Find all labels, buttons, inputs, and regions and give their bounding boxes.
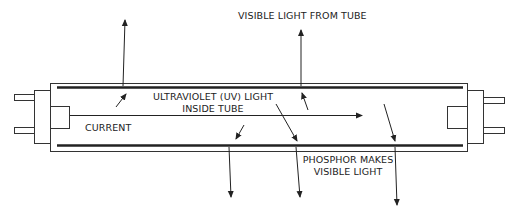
label-uv-line2: INSIDE TUBE — [138, 103, 288, 115]
left-top-pin — [15, 95, 35, 101]
left-bottom-pin — [15, 128, 35, 134]
label-phosphor-line2: VISIBLE LIGHT — [298, 166, 398, 178]
right-end-cap — [448, 91, 505, 144]
visible-light-arrow-up-left — [123, 20, 125, 86]
uv-arrow-bottom-left — [236, 125, 244, 139]
label-uv-light-inside-tube: ULTRAVIOLET (UV) LIGHT INSIDE TUBE — [138, 91, 288, 115]
fluorescent-tube-diagram: VISIBLE LIGHT FROM TUBE ULTRAVIOLET (UV)… — [0, 0, 523, 218]
right-electrode — [448, 107, 468, 129]
label-phosphor-line1: PHOSPHOR MAKES — [298, 154, 398, 166]
right-top-pin — [484, 98, 505, 104]
left-electrode — [51, 107, 70, 129]
left-end-cap — [15, 91, 70, 144]
uv-arrow-bottom-right — [384, 104, 395, 141]
label-visible-light-from-tube: VISIBLE LIGHT FROM TUBE — [238, 10, 367, 22]
uv-arrow-top-left — [116, 94, 126, 107]
label-phosphor-makes-visible-light: PHOSPHOR MAKES VISIBLE LIGHT — [298, 154, 398, 178]
visible-light-arrow-down-left — [229, 147, 231, 197]
label-uv-line1: ULTRAVIOLET (UV) LIGHT — [138, 91, 288, 103]
label-current: CURRENT — [85, 122, 131, 134]
right-bottom-pin — [484, 128, 505, 134]
uv-arrow-top-right — [302, 93, 308, 110]
